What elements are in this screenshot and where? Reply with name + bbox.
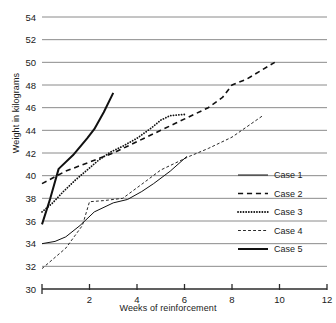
y-axis-title: Weight in kilograms [11,43,21,183]
chart-legend: Case 1Case 2Case 3Case 4Case 5 [238,170,303,254]
y-tick-label: 48 [25,80,36,91]
x-axis: 24681012 [42,284,332,305]
series-line-4 [42,116,263,269]
y-tick-label: 30 [25,284,36,295]
y-tick-label: 32 [25,261,36,272]
data-series [42,62,275,268]
y-tick-label: 36 [25,216,36,227]
x-axis-title: Weeks of reinforcement [0,303,336,313]
y-tick-label: 44 [25,125,36,136]
y-tick-label: 40 [25,170,36,181]
chart-canvas: 30323436384042444648505254 24681012 Case… [0,0,336,323]
series-line-1 [42,156,187,243]
y-tick-label: 50 [25,57,36,68]
series-line-2 [42,62,275,183]
y-tick-label: 52 [25,34,36,45]
series-line-5 [42,93,113,224]
y-axis-ticks: 30323436384042444648505254 [25,12,36,295]
line-chart: 30323436384042444648505254 24681012 Case… [0,0,336,323]
y-tick-label: 54 [25,12,36,23]
y-tick-label: 46 [25,102,36,113]
legend-label-3: Case 3 [274,207,303,217]
legend-label-2: Case 2 [274,189,303,199]
y-tick-label: 42 [25,148,36,159]
legend-label-1: Case 1 [274,170,303,180]
legend-label-4: Case 4 [274,226,303,236]
legend-label-5: Case 5 [274,244,303,254]
y-tick-label: 34 [25,238,36,249]
y-tick-label: 38 [25,193,36,204]
